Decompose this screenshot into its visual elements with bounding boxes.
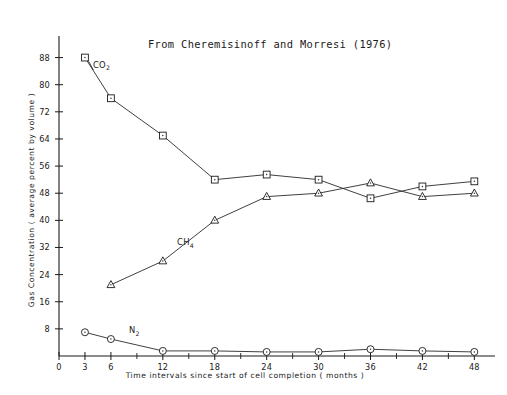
- data-point-center: [162, 260, 164, 262]
- y-tick-label: 24: [39, 270, 50, 280]
- data-point-center: [370, 182, 372, 184]
- data-point-center: [318, 192, 320, 194]
- data-point-center: [84, 332, 86, 334]
- x-tick-label: 36: [365, 362, 376, 372]
- y-tick-label: 72: [39, 107, 50, 117]
- series-ch4: [107, 179, 478, 288]
- data-point-center: [110, 338, 112, 340]
- data-point-center: [474, 192, 476, 194]
- data-point-center: [266, 351, 268, 353]
- series-annotations: CO2CH4N2: [89, 60, 194, 337]
- y-tick-label: 40: [39, 215, 50, 225]
- series-label-main: CO: [93, 60, 106, 70]
- data-point-center: [318, 179, 320, 181]
- chart-page: 816243240485664728088 03612182430364248 …: [0, 0, 507, 395]
- data-point-center: [318, 351, 320, 353]
- y-tick-label: 16: [39, 297, 50, 307]
- data-point-center: [422, 350, 424, 352]
- y-tick-label: 32: [39, 242, 50, 252]
- data-point-center: [110, 98, 112, 100]
- data-point-center: [214, 179, 216, 181]
- series-line-n2: [85, 332, 474, 352]
- data-point-center: [422, 186, 424, 188]
- series-label-subscript: 2: [135, 330, 139, 337]
- y-tick-label: 80: [39, 80, 50, 90]
- y-tick-label: 8: [45, 324, 50, 334]
- x-tick-label: 6: [108, 362, 113, 372]
- x-tick-label: 42: [417, 362, 428, 372]
- y-tick-label: 56: [39, 161, 50, 171]
- series-label-co2: CO2: [93, 60, 110, 72]
- data-point-center: [84, 57, 86, 59]
- data-point-center: [266, 174, 268, 176]
- data-point-center: [214, 220, 216, 222]
- data-point-center: [266, 196, 268, 198]
- data-series: [81, 54, 478, 355]
- y-tick-label: 48: [39, 188, 50, 198]
- x-tick-label: 0: [56, 362, 61, 372]
- data-point-center: [162, 350, 164, 352]
- series-n2: [81, 329, 477, 356]
- x-tick-label: 3: [82, 362, 87, 372]
- y-tick-label: 88: [39, 53, 50, 63]
- x-axis-title: Time intervals since start of cell compl…: [125, 371, 365, 380]
- series-label-subscript: 4: [190, 242, 194, 249]
- gas-concentration-line-chart: 816243240485664728088 03612182430364248 …: [0, 0, 507, 395]
- data-point-center: [110, 284, 112, 286]
- data-point-center: [422, 196, 424, 198]
- series-label-main: CH: [177, 237, 190, 247]
- y-tick-label: 64: [39, 134, 50, 144]
- series-label-subscript: 2: [106, 64, 110, 71]
- data-point-center: [370, 348, 372, 350]
- chart-title: From Cheremisinoff and Morresi (1976): [148, 38, 392, 50]
- data-point-center: [214, 350, 216, 352]
- series-line-co2: [85, 58, 474, 199]
- data-point-center: [474, 351, 476, 353]
- data-point-center: [474, 181, 476, 183]
- series-label-n2: N2: [129, 325, 140, 337]
- x-tick-label: 48: [469, 362, 480, 372]
- data-point-center: [370, 198, 372, 200]
- series-co2: [82, 54, 478, 202]
- y-axis-title: Gas Concentration ( average percent by v…: [27, 93, 36, 308]
- data-point-center: [162, 135, 164, 137]
